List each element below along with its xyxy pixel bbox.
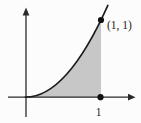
figure-canvas: (1, 1) 1: [0, 0, 141, 123]
point-1-1-marker: [98, 17, 104, 23]
point-1-0-marker: [97, 94, 103, 100]
figure-container: (1, 1) 1: [0, 0, 141, 123]
point-1-1-label: (1, 1): [107, 19, 132, 32]
x-tick-label: 1: [96, 106, 102, 118]
